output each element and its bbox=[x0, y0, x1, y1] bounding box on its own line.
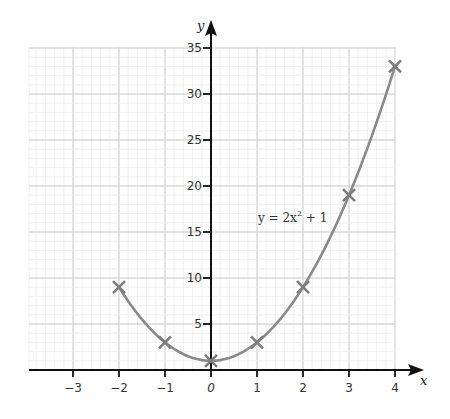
x-tick-label: 4 bbox=[391, 381, 399, 395]
equation-annotation: y = 2x2 + 1 bbox=[257, 209, 327, 225]
parabola-chart: −3−2−1012345101520253035 x y y = 2x2 + 1 bbox=[0, 0, 450, 419]
y-tick-label: 5 bbox=[194, 317, 202, 331]
x-tick-label: 1 bbox=[253, 381, 261, 395]
x-tick-label: 0 bbox=[207, 381, 215, 395]
y-tick-label: 35 bbox=[187, 41, 202, 55]
x-tick-label: −1 bbox=[156, 381, 174, 395]
equation-prefix: y = 2x bbox=[257, 211, 297, 225]
y-tick-label: 10 bbox=[187, 271, 202, 285]
y-tick-label: 30 bbox=[187, 87, 202, 101]
y-tick-label: 15 bbox=[187, 225, 202, 239]
y-tick-label: 25 bbox=[187, 133, 202, 147]
x-axis-label: x bbox=[420, 373, 428, 388]
y-tick-label: 20 bbox=[187, 179, 202, 193]
x-tick-label: 2 bbox=[299, 381, 307, 395]
x-tick-label: 3 bbox=[345, 381, 353, 395]
y-axis-label: y bbox=[196, 18, 205, 33]
equation-suffix: + 1 bbox=[302, 211, 327, 225]
x-tick-label: −3 bbox=[64, 381, 82, 395]
x-tick-label: −2 bbox=[110, 381, 128, 395]
